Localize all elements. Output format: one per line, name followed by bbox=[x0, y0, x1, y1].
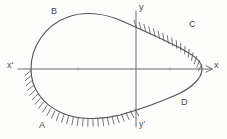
hatch-tick bbox=[25, 76, 31, 81]
closed-curve-path bbox=[31, 14, 202, 119]
hatch-tick bbox=[117, 115, 119, 122]
hatch-tick bbox=[126, 113, 129, 120]
hatch-tick bbox=[198, 65, 201, 72]
curve-label-d: D bbox=[181, 98, 188, 107]
hatch-tick bbox=[103, 118, 104, 126]
hatch-tick bbox=[43, 106, 47, 113]
hatch-tick bbox=[83, 118, 84, 126]
hatch-tick bbox=[172, 38, 173, 46]
axis-label-y: y bbox=[139, 3, 144, 12]
curve-label-c: C bbox=[189, 20, 196, 29]
hatch-tick bbox=[121, 114, 124, 121]
hatch-tick bbox=[62, 115, 64, 122]
hatch-tick bbox=[39, 102, 44, 108]
hatch-tick bbox=[28, 85, 34, 90]
figure-canvas: x' x y y' B C D A bbox=[0, 0, 227, 139]
hatch-tick bbox=[25, 71, 31, 76]
hatch-tick bbox=[176, 41, 177, 49]
hatch-tick bbox=[72, 117, 73, 125]
hatch-tick bbox=[32, 94, 37, 100]
curve-label-a: A bbox=[39, 121, 45, 130]
hatch-tick bbox=[192, 53, 194, 61]
hatch-marks-bottom bbox=[52, 109, 139, 126]
closed-curve-group bbox=[31, 14, 202, 119]
hatch-tick bbox=[67, 116, 69, 124]
hatch-tick bbox=[35, 98, 40, 104]
hatch-tick bbox=[30, 90, 36, 96]
x-axis-group bbox=[18, 66, 213, 72]
axis-label-x: x bbox=[214, 61, 219, 70]
hatch-tick bbox=[52, 111, 55, 118]
axis-label-y-prime: y' bbox=[139, 120, 145, 129]
hatch-tick bbox=[26, 80, 32, 85]
hatch-tick bbox=[112, 116, 114, 124]
hatch-tick bbox=[188, 49, 189, 57]
curve-label-b: B bbox=[51, 7, 57, 16]
hatch-tick bbox=[98, 118, 99, 126]
hatch-tick bbox=[77, 118, 78, 126]
hatch-tick bbox=[47, 109, 51, 116]
axis-label-x-prime: x' bbox=[7, 61, 14, 70]
hatch-tick bbox=[197, 61, 200, 68]
hatch-tick bbox=[107, 117, 108, 125]
hatch-tick bbox=[56, 113, 59, 120]
